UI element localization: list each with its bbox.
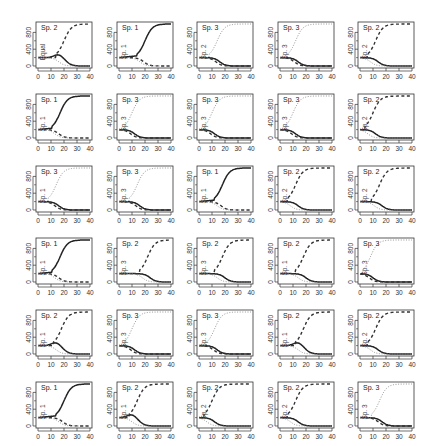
y-tick-label: 400 [106,115,113,126]
panel-ylabel: Sp. 3 [361,404,369,420]
y-tick-label: 400 [106,43,113,54]
y-tick-label: 0 [186,352,193,356]
x-tick-label: 10 [208,433,216,440]
x-tick-label: 20 [382,217,390,224]
y-tick-label: 800 [106,243,113,254]
x-tick-label: 10 [208,361,216,368]
y-tick-label: 0 [267,424,274,428]
y-tick-label: 400 [25,43,32,54]
x-tick-label: 20 [302,217,310,224]
x-tick-label: 10 [369,73,377,80]
y-tick-label: 400 [267,187,274,198]
y-tick-label: 400 [186,259,193,270]
x-tick-label: 0 [197,217,201,224]
x-tick-label: 30 [234,361,242,368]
x-tick-label: 10 [369,289,377,296]
x-tick-label: 20 [302,73,310,80]
x-tick-label: 20 [60,361,68,368]
x-tick-label: 10 [208,289,216,296]
y-tick-label: 800 [106,99,113,110]
x-tick-label: 0 [117,73,121,80]
x-tick-label: 10 [289,289,297,296]
panel-ylabel: Sp. 3 [120,332,128,348]
y-tick-label: 400 [267,331,274,342]
panel-ylabel: Sp. 1 [39,332,47,348]
y-tick-label: 0 [267,352,274,356]
y-tick-label: 800 [186,315,193,326]
panel-ylabel: Equal [39,43,47,60]
x-tick-label: 30 [315,145,323,152]
x-tick-label: 40 [247,145,255,152]
x-tick-label: 30 [154,433,162,440]
x-tick-label: 30 [73,73,81,80]
panel-title: Sp. 3 [363,384,379,392]
x-tick-label: 30 [395,289,403,296]
x-tick-label: 30 [234,217,242,224]
x-tick-label: 0 [358,433,362,440]
x-tick-label: 0 [117,289,121,296]
y-tick-label: 800 [347,387,354,398]
x-tick-label: 30 [234,433,242,440]
y-tick-label: 0 [186,208,193,212]
y-tick-label: 800 [106,27,113,38]
x-tick-label: 30 [315,361,323,368]
x-tick-label: 0 [278,145,282,152]
x-tick-label: 0 [358,145,362,152]
y-tick-label: 400 [25,331,32,342]
panel-ylabel: Sp. 3 [281,44,289,60]
y-tick-label: 400 [347,403,354,414]
x-tick-label: 0 [278,217,282,224]
y-tick-label: 0 [267,136,274,140]
panel-title: Sp. 2 [122,384,138,392]
x-tick-label: 20 [221,145,229,152]
y-tick-label: 0 [267,64,274,68]
x-tick-label: 40 [328,217,336,224]
y-tick-label: 800 [25,243,32,254]
panel-title: Sp. 2 [363,168,379,176]
x-tick-label: 40 [167,361,175,368]
x-tick-label: 40 [247,217,255,224]
y-tick-label: 0 [106,424,113,428]
y-tick-label: 400 [25,403,32,414]
x-tick-label: 10 [289,433,297,440]
x-tick-label: 40 [86,217,94,224]
x-tick-label: 10 [128,433,136,440]
y-tick-label: 800 [347,243,354,254]
x-tick-label: 10 [289,73,297,80]
y-tick-label: 400 [186,115,193,126]
panel-title: Sp. 3 [202,312,218,320]
x-tick-label: 40 [408,217,416,224]
x-tick-label: 10 [289,217,297,224]
x-tick-label: 30 [73,217,81,224]
x-tick-label: 30 [395,73,403,80]
x-tick-label: 40 [328,361,336,368]
y-tick-label: 0 [106,280,113,284]
y-tick-label: 400 [186,331,193,342]
y-tick-label: 0 [347,352,354,356]
y-tick-label: 400 [106,331,113,342]
x-tick-label: 20 [141,289,149,296]
panel: 0400800010203040Sp. 2Sp. 2 [267,166,336,224]
y-tick-label: 0 [186,424,193,428]
x-tick-label: 30 [234,289,242,296]
panel-title: Sp. 1 [41,96,57,104]
x-tick-label: 40 [408,73,416,80]
x-tick-label: 0 [36,433,40,440]
x-tick-label: 20 [382,361,390,368]
y-tick-label: 400 [347,259,354,270]
x-tick-label: 0 [36,217,40,224]
x-tick-label: 10 [128,145,136,152]
y-tick-label: 800 [267,315,274,326]
x-tick-label: 40 [167,217,175,224]
x-tick-label: 40 [86,73,94,80]
x-tick-label: 30 [154,73,162,80]
panel: 0400800010203040Sp. 2Sp. 2 [267,382,336,440]
x-tick-label: 10 [47,217,55,224]
panel-ylabel: Sp. 1 [281,260,289,276]
x-tick-label: 10 [369,145,377,152]
panel-ylabel: Sp. 2 [361,188,369,204]
y-tick-label: 0 [347,136,354,140]
x-tick-label: 30 [315,73,323,80]
x-tick-label: 30 [234,73,242,80]
y-tick-label: 0 [347,424,354,428]
